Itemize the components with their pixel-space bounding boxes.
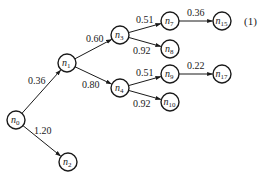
tree-diagram: 0.361.200.600.800.510.920.510.920.360.22…: [0, 0, 265, 188]
node-n7: n7: [161, 12, 179, 30]
edge-label-n9-n17: 0.22: [187, 60, 205, 71]
node-n3: n3: [111, 26, 129, 44]
node-n0: n0: [7, 111, 25, 129]
edge-label-n0-n1: 0.36: [28, 75, 46, 86]
node-n17: n17: [213, 65, 231, 83]
node-n15: n15: [213, 12, 231, 30]
node-n8: n8: [161, 40, 179, 58]
edge-label-n3-n8: 0.92: [133, 45, 151, 56]
node-n2: n2: [59, 153, 77, 171]
equation-label: (1): [244, 15, 257, 28]
node-n9: n9: [161, 65, 179, 83]
node-n10: n10: [161, 93, 179, 111]
edge-label-n3-n7: 0.51: [136, 14, 154, 25]
edge-label-n4-n10: 0.92: [133, 98, 151, 109]
node-n1: n1: [58, 54, 76, 72]
edge-label-n0-n2: 1.20: [34, 125, 52, 136]
edge-label-n1-n4: 0.80: [82, 79, 100, 90]
node-n4: n4: [111, 79, 129, 97]
edge-label-n1-n3: 0.60: [86, 33, 104, 44]
edge-label-n7-n15: 0.36: [187, 7, 205, 18]
edge-label-n4-n9: 0.51: [136, 67, 154, 78]
